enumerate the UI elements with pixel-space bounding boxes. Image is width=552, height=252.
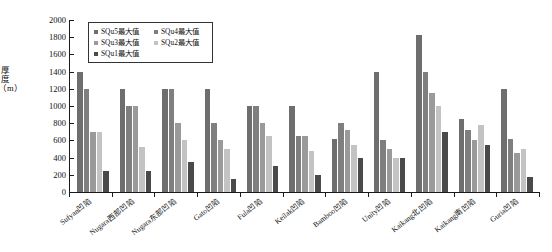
y-axis-tick-label: 1200	[22, 84, 70, 94]
x-axis-tick-mark	[454, 193, 455, 197]
legend-swatch-icon	[154, 41, 158, 45]
bar	[231, 179, 237, 192]
legend-item-squ2: SQu2最大值	[154, 37, 208, 48]
y-axis-tick-label: 1800	[22, 32, 70, 42]
bar	[338, 123, 344, 192]
bar-group	[496, 20, 538, 192]
x-axis-tick-mark	[154, 193, 155, 197]
legend-item-squ1: SQu1最大值	[94, 48, 150, 59]
bar	[162, 89, 168, 192]
bar	[332, 139, 338, 192]
bar	[478, 125, 484, 192]
legend-label: SQu4最大值	[161, 26, 199, 37]
bar	[247, 106, 253, 192]
bar-group	[453, 20, 495, 192]
x-axis-tick-mark	[325, 193, 326, 197]
legend-swatch-icon	[154, 30, 158, 34]
x-axis-label-text: Gato凹陷	[190, 195, 221, 223]
bar	[465, 130, 471, 192]
bar	[126, 106, 132, 192]
x-axis-label-text: Keilak凹陷	[271, 195, 306, 226]
y-axis-tick-label: 400	[22, 153, 70, 163]
bar	[501, 89, 507, 192]
bar	[90, 132, 96, 192]
bar	[211, 123, 217, 192]
y-axis-tick-label: 200	[22, 170, 70, 180]
bar	[289, 106, 295, 192]
bar	[485, 145, 491, 192]
bar	[260, 123, 266, 192]
x-axis-labels: Sufyan凹陷Nugara西部凹陷Nugara东部凹陷Gato凹陷Fula凹陷…	[69, 193, 539, 252]
y-axis-tick-label: 800	[22, 118, 70, 128]
bar-group	[326, 20, 368, 192]
y-axis-tick-label: 2000	[22, 15, 70, 25]
bar	[459, 119, 465, 192]
bar	[436, 106, 442, 192]
x-axis-tick-mark	[240, 193, 241, 197]
legend-row: SQu1最大值	[94, 48, 208, 59]
bar	[521, 149, 527, 192]
x-axis-tick-mark	[496, 193, 497, 197]
bar	[309, 151, 315, 192]
bar-group	[241, 20, 283, 192]
bar	[302, 136, 308, 192]
bar	[514, 153, 520, 192]
legend: SQu5最大值 SQu4最大值 SQu3最大值 SQu2最大值 SQu1最大值	[88, 22, 213, 63]
bar	[380, 140, 386, 192]
x-axis-label-text: Fula凹陷	[234, 195, 264, 222]
bar	[139, 147, 145, 192]
bar	[253, 106, 259, 192]
bar	[103, 171, 109, 193]
bar	[218, 140, 224, 192]
bar	[146, 171, 152, 193]
bar	[296, 136, 302, 192]
legend-item-squ4: SQu4最大值	[154, 26, 208, 37]
bar-group	[369, 20, 411, 192]
bar-group	[411, 20, 453, 192]
x-axis-label-text: Unity凹陷	[359, 195, 392, 224]
bar	[345, 130, 351, 192]
x-axis-label-text: Guria凹陷	[487, 195, 520, 224]
x-axis-tick-mark	[69, 193, 70, 197]
bar	[273, 166, 279, 192]
bar-group	[284, 20, 326, 192]
bar	[84, 89, 90, 192]
bar	[423, 72, 429, 192]
x-axis-tick-mark	[283, 193, 284, 197]
legend-label: SQu3最大值	[101, 37, 139, 48]
x-axis-label-text: Bamboo凹陷	[310, 195, 350, 229]
legend-row: SQu3最大值 SQu2最大值	[94, 37, 208, 48]
bar	[97, 132, 103, 192]
bar	[169, 89, 175, 192]
legend-swatch-icon	[94, 30, 98, 34]
x-axis-label-text: Kaikang南凹陷	[432, 195, 478, 234]
legend-label: SQu1最大值	[101, 48, 139, 59]
bar	[77, 72, 83, 192]
bar	[374, 72, 380, 192]
x-axis-label-text: Kaikang北凹陷	[389, 195, 435, 234]
legend-label: SQu5最大值	[101, 26, 139, 37]
bar	[120, 89, 126, 192]
bar	[133, 106, 139, 192]
bar	[527, 177, 533, 192]
bar	[393, 158, 399, 192]
x-axis-tick-mark	[368, 193, 369, 197]
bar	[358, 158, 364, 192]
bar	[442, 132, 448, 192]
y-axis-tick-label: 600	[22, 135, 70, 145]
bar	[387, 149, 393, 192]
legend-item-squ5: SQu5最大值	[94, 26, 148, 37]
bar	[175, 123, 181, 192]
bar	[416, 35, 422, 192]
bar	[266, 136, 272, 192]
y-axis-tick-label: 1000	[22, 101, 70, 111]
x-axis-tick-mark	[411, 193, 412, 197]
y-axis-tick-label: 1600	[22, 49, 70, 59]
y-axis-title: 厚度（m）	[0, 66, 12, 93]
legend-swatch-icon	[94, 41, 98, 45]
bar	[400, 158, 406, 192]
y-axis-tick-label: 1400	[22, 67, 70, 77]
x-axis-label-text: Sufyan凹陷	[57, 195, 93, 227]
legend-row: SQu5最大值 SQu4最大值	[94, 26, 208, 37]
bar	[182, 140, 188, 192]
